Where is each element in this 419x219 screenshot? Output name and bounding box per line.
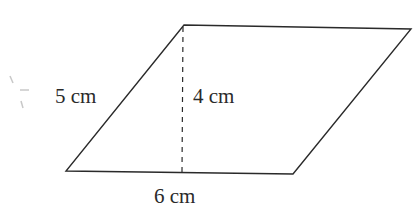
base-label: 6 cm: [154, 184, 195, 208]
parallelogram-diagram: 5 cm 4 cm 6 cm: [0, 0, 419, 219]
side-label: 5 cm: [55, 84, 96, 108]
height-dashed-line: [182, 27, 183, 172]
height-label: 4 cm: [193, 84, 234, 108]
parallelogram-outline: [66, 25, 411, 174]
stray-marks: [10, 76, 29, 108]
